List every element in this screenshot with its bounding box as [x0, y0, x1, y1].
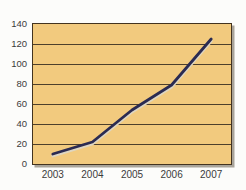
y-tick-label: 80	[0, 79, 27, 89]
series-line-highlight	[53, 41, 211, 156]
y-tick-label: 100	[0, 59, 27, 69]
y-tick-label: 40	[0, 119, 27, 129]
y-tick-label: 120	[0, 39, 27, 49]
y-tick-label: 0	[0, 159, 27, 169]
line-chart-figure: 020406080100120140 20032004200520062007	[0, 0, 246, 190]
x-tick-label: 2005	[112, 169, 152, 180]
line-chart-svg	[33, 24, 231, 164]
x-tick-label: 2003	[33, 169, 73, 180]
y-tick-label: 20	[0, 139, 27, 149]
y-tick-label: 60	[0, 99, 27, 109]
x-tick-label: 2006	[152, 169, 192, 180]
plot-area	[32, 23, 232, 165]
x-tick-label: 2004	[72, 169, 112, 180]
x-tick-label: 2007	[191, 169, 231, 180]
y-tick-label: 140	[0, 19, 27, 29]
series-line	[53, 39, 211, 154]
